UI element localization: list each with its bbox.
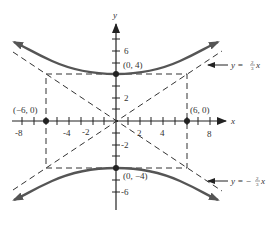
y-tick-label: 2 [124,93,129,103]
y-tick-label: -2 [121,140,129,150]
hyperbola-graph: y x -8 -4 -2 2 4 8 6 2 -2 -6 (0, 4) (0, … [0,0,273,226]
point-label-top-vertex: (0, 4) [123,60,143,70]
y-tick-label: -6 [121,187,129,197]
svg-text:y = −: y = − [230,176,252,186]
asymptote-label-positive: y = 2 3 x [230,60,260,71]
x-tick-label: -2 [82,127,90,137]
vertex-bottom-point [113,165,119,171]
x-axis-label: x [230,116,235,126]
svg-text:x: x [260,176,265,186]
x-tick-label: -4 [63,128,71,138]
x-tick-label: -8 [15,128,23,138]
x-tick-label: 8 [207,129,212,139]
hyperbola-upper-branch-left [14,42,116,74]
x-tick-label: 2 [137,128,142,138]
point-label-neg6-0: (−6, 0) [13,105,38,115]
y-tick-label: 6 [124,46,129,56]
svg-text:2: 2 [256,176,259,181]
point-label-bottom-vertex: (0, −4) [123,171,148,181]
svg-text:x: x [255,60,260,70]
x-tick-label: 4 [160,128,165,138]
point-6-0 [184,118,190,124]
point-label-6-0: (6, 0) [190,105,210,115]
svg-text:3: 3 [256,182,259,187]
vertex-top-point [113,71,119,77]
point-neg6-0 [43,118,49,124]
svg-text:y =: y = [230,60,243,70]
svg-text:2: 2 [251,60,254,65]
hyperbola-lower-branch-left [14,168,116,200]
asymptote-label-negative: y = − 2 3 x [230,176,265,187]
y-axis-label: y [112,10,117,20]
svg-text:3: 3 [251,66,254,71]
